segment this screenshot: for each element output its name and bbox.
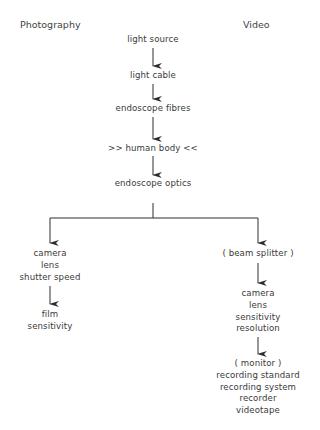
video-item-sensitivity: sensitivity: [236, 312, 281, 324]
video-item-beam-splitter: ( beam splitter ): [222, 248, 293, 260]
video-item-monitor: ( monitor ): [216, 358, 299, 370]
video-item-recorder: recorder: [216, 393, 299, 405]
photo-group-camera: camera lens shutter speed: [20, 248, 81, 283]
photo-item-sensitivity: sensitivity: [28, 321, 73, 333]
photo-item-lens: lens: [20, 260, 81, 272]
video-item-videotape: videotape: [216, 405, 299, 417]
video-group-camera: camera lens sensitivity resolution: [236, 288, 281, 335]
video-group-monitor: ( monitor ) recording standard recording…: [216, 358, 299, 417]
node-endoscope-optics: endoscope optics: [115, 178, 192, 190]
video-item-camera: camera: [236, 288, 281, 300]
video-item-recording-standard: recording standard: [216, 370, 299, 382]
photo-group-film: film sensitivity: [28, 309, 73, 333]
node-human-body: >> human body <<: [108, 143, 198, 155]
node-endoscope-fibres: endoscope fibres: [116, 103, 191, 115]
video-group-beam-splitter: ( beam splitter ): [222, 248, 293, 260]
video-item-recording-system: recording system: [216, 382, 299, 394]
node-light-source: light source: [127, 34, 179, 46]
video-item-lens: lens: [236, 300, 281, 312]
photo-item-film: film: [28, 309, 73, 321]
photo-item-shutter-speed: shutter speed: [20, 272, 81, 284]
video-item-resolution: resolution: [236, 323, 281, 335]
photo-item-camera: camera: [20, 248, 81, 260]
node-light-cable: light cable: [130, 70, 176, 82]
